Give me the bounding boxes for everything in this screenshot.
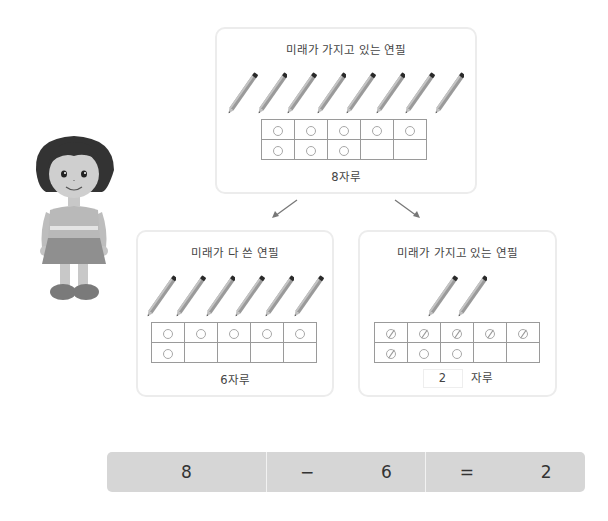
- crossed-counter-icon: [386, 329, 396, 339]
- left-card-pencils-used: 미래가 다 쓴 연필 6자루: [136, 230, 334, 397]
- ten-frame-cell: [295, 120, 328, 140]
- ten-frame-cell: [408, 323, 441, 343]
- minuend: 8: [181, 462, 192, 482]
- ten-frame-cell: [507, 343, 540, 363]
- pencil-icon: [176, 270, 206, 322]
- ten-frame: [374, 322, 540, 363]
- ten-frame-cell: [394, 120, 427, 140]
- ten-frame-cell: [375, 323, 408, 343]
- ten-frame-cell: [185, 323, 218, 343]
- ten-frame-cell: [474, 323, 507, 343]
- unit-label: 자루: [471, 371, 493, 385]
- result: 2: [541, 462, 552, 482]
- left-card-count: 6자루: [138, 371, 332, 387]
- ten-frame-cell: [375, 343, 408, 363]
- pencil-icon: [317, 67, 347, 119]
- pencil-icon: [294, 270, 324, 322]
- pencil-icon: [287, 67, 317, 119]
- pencil-icon: [376, 67, 406, 119]
- pencil-group: [217, 67, 475, 119]
- pencil-icon: [228, 67, 258, 119]
- ten-frame-cell: [361, 120, 394, 140]
- crossed-counter-icon: [518, 329, 528, 339]
- counter-circle-icon: [405, 126, 415, 136]
- ten-frame-cell: [218, 343, 251, 363]
- pencil-group: [138, 270, 332, 322]
- right-card-pencils-remaining: 미래가 가지고 있는 연필 2자루: [358, 230, 557, 397]
- ten-frame-cell: [262, 120, 295, 140]
- pencil-icon: [206, 270, 236, 322]
- ten-frame-cell: [218, 323, 251, 343]
- ten-frame-cell: [441, 343, 474, 363]
- ten-frame: [151, 322, 317, 363]
- counter-circle-icon: [295, 329, 305, 339]
- ten-frame-cell: [152, 323, 185, 343]
- ten-frame-cell: [284, 323, 317, 343]
- top-card-pencils-owned: 미래가 가지고 있는 연필 8자루: [215, 27, 477, 194]
- pencil-icon: [435, 67, 465, 119]
- crossed-counter-icon: [386, 349, 396, 359]
- pencil-icon: [428, 270, 458, 322]
- ten-frame-cell: [185, 343, 218, 363]
- ten-frame-cell: [474, 343, 507, 363]
- pencil-group: [360, 270, 555, 322]
- counter-circle-icon: [419, 349, 429, 359]
- ten-frame-cell: [284, 343, 317, 363]
- counter-circle-icon: [163, 349, 173, 359]
- crossed-counter-icon: [452, 329, 462, 339]
- equals-sign: =: [460, 462, 474, 482]
- crossed-counter-icon: [419, 329, 429, 339]
- subtrahend: 6: [381, 462, 392, 482]
- right-card-count: 2자루: [360, 369, 555, 388]
- pencil-icon: [458, 270, 488, 322]
- counter-circle-icon: [273, 146, 283, 156]
- ten-frame-cell: [394, 140, 427, 160]
- ten-frame-cell: [441, 323, 474, 343]
- ten-frame-cell: [251, 343, 284, 363]
- ten-frame: [261, 119, 427, 160]
- equation-right-segment: = 2: [425, 452, 585, 492]
- crossed-counter-icon: [485, 329, 495, 339]
- ten-frame-cell: [152, 343, 185, 363]
- counter-circle-icon: [306, 126, 316, 136]
- top-card-count: 8자루: [217, 168, 475, 184]
- arrow-down-right-icon: [392, 198, 422, 220]
- pencil-icon: [147, 270, 177, 322]
- counter-circle-icon: [339, 126, 349, 136]
- answer-input-box[interactable]: 2: [423, 369, 463, 388]
- ten-frame-cell: [262, 140, 295, 160]
- counter-circle-icon: [196, 329, 206, 339]
- counter-circle-icon: [452, 349, 462, 359]
- pencil-icon: [235, 270, 265, 322]
- ten-frame-cell: [507, 323, 540, 343]
- pencil-icon: [346, 67, 376, 119]
- counter-circle-icon: [262, 329, 272, 339]
- pencil-icon: [258, 67, 288, 119]
- ten-frame-cell: [251, 323, 284, 343]
- minus-operator: −: [300, 462, 314, 482]
- counter-circle-icon: [229, 329, 239, 339]
- ten-frame-cell: [328, 120, 361, 140]
- counter-circle-icon: [306, 146, 316, 156]
- equation-bar: 8 − 6 = 2: [107, 452, 585, 492]
- ten-frame-cell: [408, 343, 441, 363]
- counter-circle-icon: [273, 126, 283, 136]
- equation-middle-segment: − 6: [266, 452, 426, 492]
- counter-circle-icon: [339, 146, 349, 156]
- left-card-title: 미래가 다 쓴 연필: [138, 244, 332, 260]
- arrow-down-left-icon: [270, 198, 300, 220]
- right-card-title: 미래가 가지고 있는 연필: [360, 244, 555, 260]
- ten-frame-cell: [328, 140, 361, 160]
- girl-character-illustration: [28, 130, 120, 302]
- counter-circle-icon: [372, 126, 382, 136]
- pencil-icon: [405, 67, 435, 119]
- top-card-title: 미래가 가지고 있는 연필: [217, 41, 475, 57]
- equation-left-segment: 8: [107, 452, 266, 492]
- ten-frame-cell: [295, 140, 328, 160]
- pencil-icon: [265, 270, 295, 322]
- ten-frame-cell: [361, 140, 394, 160]
- counter-circle-icon: [163, 329, 173, 339]
